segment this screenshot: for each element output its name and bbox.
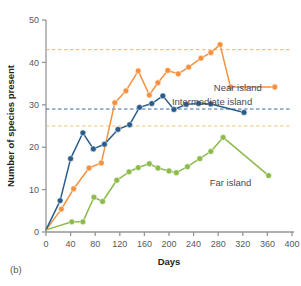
series-line-1 <box>46 96 244 230</box>
data-point <box>241 110 247 116</box>
x-axis-title: Days <box>158 256 181 267</box>
data-point <box>155 80 161 86</box>
data-point <box>208 149 214 155</box>
x-tick-label: 280 <box>211 239 226 249</box>
series-label-2: Far island <box>210 177 252 188</box>
x-tick-label: 400 <box>284 239 299 249</box>
data-point <box>135 68 141 74</box>
data-point <box>137 104 143 110</box>
y-tick-label: 0 <box>34 227 39 237</box>
y-tick-label: 20 <box>29 142 39 152</box>
data-point <box>160 93 166 99</box>
data-point <box>217 42 223 48</box>
data-point <box>126 169 132 175</box>
data-point <box>86 165 92 171</box>
data-point <box>185 164 191 170</box>
data-point <box>155 165 161 171</box>
x-tick-label: 360 <box>260 239 275 249</box>
data-point <box>197 156 203 162</box>
data-point <box>115 126 121 132</box>
data-point <box>208 50 214 56</box>
y-tick-label: 10 <box>29 185 39 195</box>
x-tick-label: 240 <box>186 239 201 249</box>
data-point <box>123 88 129 94</box>
data-point <box>80 219 86 225</box>
data-point <box>90 146 96 152</box>
data-point <box>114 177 120 183</box>
figure-panel: 0102030405004080120160200240280320360400… <box>0 0 301 286</box>
data-point <box>220 135 226 141</box>
x-tick-label: 200 <box>161 239 176 249</box>
y-tick-label: 30 <box>29 100 39 110</box>
data-point <box>102 141 108 147</box>
x-tick-label: 0 <box>43 239 48 249</box>
data-point <box>146 92 152 98</box>
panel-label: (b) <box>10 264 22 275</box>
data-point <box>171 107 177 113</box>
data-point <box>112 100 118 106</box>
data-point <box>57 198 63 204</box>
data-point <box>91 194 97 200</box>
y-tick-label: 50 <box>29 15 39 25</box>
data-point <box>135 165 141 171</box>
y-axis-title: Number of species present <box>5 64 16 187</box>
data-point <box>146 161 152 167</box>
data-point <box>80 130 86 136</box>
data-point <box>68 156 74 162</box>
x-tick-label: 320 <box>235 239 250 249</box>
data-point <box>69 219 75 225</box>
data-point <box>175 71 181 77</box>
x-tick-label: 120 <box>112 239 127 249</box>
data-point <box>198 55 204 61</box>
data-point <box>149 101 155 107</box>
data-point <box>100 199 106 205</box>
series-label-1: Intermediate island <box>172 96 252 107</box>
x-tick-label: 160 <box>137 239 152 249</box>
line-chart: 0102030405004080120160200240280320360400… <box>0 0 301 286</box>
data-point <box>266 173 272 179</box>
x-tick-label: 80 <box>90 239 100 249</box>
data-point <box>186 64 192 70</box>
data-point <box>127 122 133 128</box>
data-point <box>165 68 171 74</box>
data-point <box>272 84 278 90</box>
data-point <box>166 168 172 174</box>
data-point <box>71 186 77 192</box>
x-tick-label: 40 <box>66 239 76 249</box>
data-point <box>98 160 104 166</box>
y-tick-label: 40 <box>29 58 39 68</box>
data-point <box>58 206 64 212</box>
data-point <box>173 170 179 176</box>
series-label-0: Near island <box>214 82 262 93</box>
